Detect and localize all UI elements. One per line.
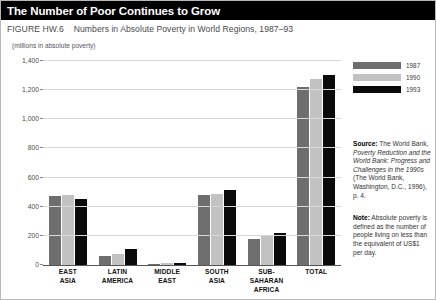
source-title-italic: Poverty Reduction and the World Bank: Pr… — [353, 149, 431, 173]
legend-label: 1993 — [406, 86, 420, 93]
figure-side-rail: 198719901993 Source: The World Bank, Pov… — [353, 53, 431, 257]
x-axis-category-line: ASIA — [43, 276, 93, 285]
x-axis-labels: EASTASIALATINAMERICAMIDDLEEASTSOUTHASIAS… — [43, 267, 341, 294]
y-axis-tick-label: 400 — [28, 202, 39, 209]
x-axis-category-line: SOUTH — [192, 267, 242, 276]
bar — [75, 199, 87, 265]
chart-area: 02004006008001,0001,2001,400 EASTASIALAT… — [9, 56, 341, 274]
legend-item: 1987 — [353, 60, 431, 70]
x-axis-category-label: EASTASIA — [43, 267, 93, 294]
figure-header-bar: The Number of Poor Continues to Grow — [1, 1, 435, 20]
y-axis-tick-mark — [40, 60, 43, 61]
x-axis-category-line: AFRICA — [242, 285, 292, 294]
figure-title: Numbers in Absolute Poverty in World Reg… — [74, 24, 293, 34]
legend-item: 1993 — [353, 84, 431, 94]
figure-page: The Number of Poor Continues to Grow FIG… — [0, 0, 436, 300]
y-axis-tick-label: 1,400 — [22, 57, 39, 64]
x-axis-category-label: SUB-SAHARANAFRICA — [242, 267, 292, 294]
source-note: Source: The World Bank, Poverty Reductio… — [353, 140, 431, 200]
x-axis-category-label: TOTAL — [291, 267, 341, 294]
y-axis-tick-mark — [40, 118, 43, 119]
legend-swatch — [353, 86, 401, 93]
chart-legend: 198719901993 — [353, 60, 431, 94]
definition-note: Note: Absolute poverty is defined as the… — [353, 214, 431, 257]
source-text-after: (The World Bank, Washington, D.C., 1996)… — [353, 174, 427, 198]
bar — [125, 249, 137, 265]
y-gridline: 1,200 — [43, 89, 341, 90]
y-axis-tick-mark — [40, 235, 43, 236]
y-axis-tick-mark — [40, 177, 43, 178]
x-axis-category-line: MIDDLE — [142, 267, 192, 276]
bar — [261, 236, 273, 265]
x-axis-category-line: TOTAL — [291, 267, 341, 276]
y-gridline: 1,000 — [43, 118, 341, 119]
bar — [310, 79, 322, 265]
bar — [224, 190, 236, 265]
x-axis-category-label: LATINAMERICA — [93, 267, 143, 294]
legend-item: 1990 — [353, 72, 431, 82]
legend-swatch — [353, 62, 401, 69]
bar — [248, 239, 260, 265]
y-gridline: 600 — [43, 177, 341, 178]
x-axis-category-line: ASIA — [192, 276, 242, 285]
x-axis-category-label: MIDDLEEAST — [142, 267, 192, 294]
y-axis-tick-mark — [40, 264, 43, 265]
source-label: Source: — [353, 140, 378, 147]
legend-swatch — [353, 74, 401, 81]
figure-caption: FIGURE HW.6 Numbers in Absolute Poverty … — [7, 24, 293, 34]
x-axis-category-label: SOUTHASIA — [192, 267, 242, 294]
y-gridline: 400 — [43, 206, 341, 207]
y-gridline: 200 — [43, 235, 341, 236]
source-text-before: The World Bank, — [378, 140, 429, 147]
bar — [323, 75, 335, 265]
axis-units-label: (millions in absolute poverty) — [12, 42, 96, 49]
y-gridline: 0 — [43, 264, 341, 265]
plot-region: 02004006008001,0001,2001,400 — [43, 61, 341, 266]
note-label: Note: — [353, 214, 370, 221]
bar — [274, 233, 286, 265]
y-axis-tick-label: 1,200 — [22, 86, 39, 93]
y-axis-tick-label: 1,000 — [22, 115, 39, 122]
y-gridline: 1,400 — [43, 60, 341, 61]
x-axis-category-line: LATIN — [93, 267, 143, 276]
y-axis-tick-label: 200 — [28, 231, 39, 238]
figure-number: FIGURE HW.6 — [7, 24, 64, 34]
legend-label: 1987 — [406, 62, 420, 69]
legend-label: 1990 — [406, 74, 420, 81]
y-axis-tick-mark — [40, 206, 43, 207]
x-axis-category-line: EAST — [43, 267, 93, 276]
y-axis-tick-label: 800 — [28, 144, 39, 151]
x-axis-category-line: EAST — [142, 276, 192, 285]
x-axis-category-line: SUB-SAHARAN — [242, 267, 292, 285]
y-axis-tick-label: 0 — [35, 261, 39, 268]
x-axis-category-line: AMERICA — [93, 276, 143, 285]
page-title: The Number of Poor Continues to Grow — [1, 5, 220, 17]
y-axis-tick-label: 600 — [28, 173, 39, 180]
y-gridline: 800 — [43, 147, 341, 148]
bar — [211, 194, 223, 265]
y-axis-tick-mark — [40, 147, 43, 148]
y-axis-tick-mark — [40, 89, 43, 90]
